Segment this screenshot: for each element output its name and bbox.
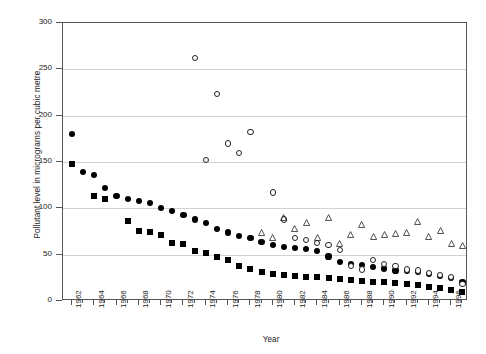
y-tick-label: 300 — [2, 17, 52, 26]
x-axis-title: Year — [263, 335, 280, 344]
data-point-filled-circle — [69, 131, 75, 137]
data-point-open-circle — [225, 140, 231, 146]
data-point-filled-circle — [125, 196, 131, 202]
x-tick-major — [406, 300, 407, 305]
data-point-open-circle — [270, 189, 276, 195]
x-tick-major — [361, 300, 362, 305]
x-tick-major — [428, 300, 429, 305]
x-tick-major — [272, 300, 273, 305]
data-point-filled-square — [292, 273, 298, 279]
data-point-filled-square — [91, 193, 97, 199]
y-tick-label: 200 — [2, 110, 52, 119]
x-tick-major — [383, 300, 384, 305]
x-tick-label: 1994 — [431, 290, 440, 308]
data-point-filled-circle — [370, 264, 376, 270]
x-tick-label: 1972 — [186, 290, 195, 308]
gridline — [63, 162, 466, 163]
data-point-filled-square — [381, 279, 387, 285]
data-point-open-circle — [404, 266, 410, 272]
y-tick-label: 150 — [2, 156, 52, 165]
data-point-open-circle — [392, 263, 398, 269]
data-point-open-circle — [325, 242, 331, 248]
data-point-filled-circle — [337, 259, 343, 265]
data-point-open-circle — [236, 150, 242, 156]
x-tick-label: 1984 — [320, 290, 329, 308]
chart-root: Pollutant level in micrograms per cubic … — [0, 0, 486, 354]
x-tick-label: 1966 — [119, 290, 128, 308]
x-tick-label: 1978 — [253, 290, 262, 308]
x-tick-major — [316, 300, 317, 305]
data-point-filled-square — [370, 279, 376, 285]
data-point-filled-square — [303, 274, 309, 280]
data-point-filled-circle — [158, 205, 164, 211]
data-point-open-circle — [370, 257, 376, 263]
x-tick-label: 1986 — [342, 290, 351, 308]
y-tick — [56, 300, 62, 301]
x-tick-label: 1982 — [298, 290, 307, 308]
data-point-filled-circle — [102, 185, 108, 191]
y-tick-label: 100 — [2, 202, 52, 211]
x-tick-label: 1962 — [74, 290, 83, 308]
data-point-filled-square — [415, 282, 421, 288]
x-tick-major — [71, 300, 72, 305]
y-tick-label: 0 — [2, 295, 52, 304]
data-point-filled-circle — [192, 216, 198, 222]
data-point-filled-square — [214, 254, 220, 260]
data-point-filled-square — [180, 241, 186, 247]
x-tick-label: 1974 — [208, 290, 217, 308]
data-point-filled-circle — [292, 245, 298, 251]
data-point-filled-square — [326, 275, 332, 281]
data-point-filled-square — [392, 280, 398, 286]
x-tick-major — [182, 300, 183, 305]
x-tick-major — [205, 300, 206, 305]
data-point-filled-square — [225, 257, 231, 263]
data-point-open-circle — [303, 237, 309, 243]
data-point-filled-square — [147, 229, 153, 235]
data-point-filled-circle — [325, 253, 331, 259]
data-point-filled-square — [236, 263, 242, 269]
gridline — [63, 208, 466, 209]
x-tick-label: 1964 — [97, 290, 106, 308]
x-tick-label: 1968 — [141, 290, 150, 308]
data-point-open-circle — [415, 267, 421, 273]
x-tick-label: 1970 — [164, 290, 173, 308]
x-tick-label: 1976 — [231, 290, 240, 308]
data-point-filled-square — [169, 240, 175, 246]
data-point-filled-square — [125, 218, 131, 224]
data-point-filled-square — [192, 248, 198, 254]
x-tick-label: 1996 — [454, 290, 463, 308]
x-tick-major — [93, 300, 94, 305]
data-point-filled-square — [281, 272, 287, 278]
x-tick-label: 1980 — [275, 290, 284, 308]
data-point-filled-circle — [147, 200, 153, 206]
data-point-filled-square — [314, 274, 320, 280]
data-point-filled-square — [359, 278, 365, 284]
data-point-filled-square — [158, 232, 164, 238]
data-point-filled-circle — [91, 172, 97, 178]
data-point-filled-circle — [236, 233, 242, 239]
y-tick-label: 50 — [2, 249, 52, 258]
plot-area — [62, 22, 467, 300]
data-point-filled-square — [136, 228, 142, 234]
y-tick-label: 250 — [2, 63, 52, 72]
data-point-open-circle — [192, 55, 198, 61]
data-point-filled-square — [259, 269, 265, 275]
gridline — [63, 69, 466, 70]
x-tick-label: 1990 — [387, 290, 396, 308]
data-point-filled-circle — [203, 220, 209, 226]
data-point-filled-square — [247, 266, 253, 272]
data-point-filled-circle — [225, 229, 231, 235]
data-point-open-circle — [337, 247, 343, 253]
x-tick-major — [116, 300, 117, 305]
data-point-open-circle — [214, 91, 220, 97]
data-point-filled-circle — [314, 248, 320, 254]
data-point-filled-square — [69, 161, 75, 167]
gridline — [63, 116, 466, 117]
data-point-filled-square — [203, 250, 209, 256]
data-point-filled-square — [102, 196, 108, 202]
data-point-filled-square — [270, 271, 276, 277]
data-point-open-circle — [292, 235, 298, 241]
data-point-filled-circle — [214, 226, 220, 232]
gridline — [63, 255, 466, 256]
x-tick-label: 1988 — [365, 290, 374, 308]
